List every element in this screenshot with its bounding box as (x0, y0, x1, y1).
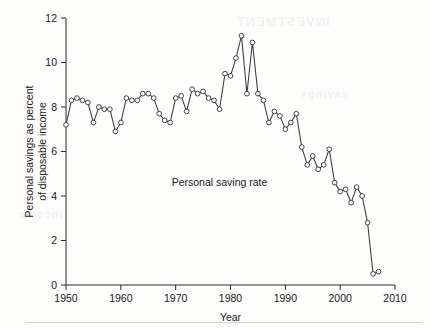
data-point-marker (212, 98, 217, 103)
data-point-marker (267, 120, 272, 125)
data-point-marker (250, 40, 255, 45)
data-point-marker (316, 167, 321, 172)
x-tick-label: 1960 (109, 292, 133, 304)
data-point-marker (108, 107, 113, 112)
data-point-marker (64, 122, 69, 127)
chart-annotations: Personal saving rate (172, 176, 268, 188)
x-tick-label: 1990 (274, 292, 298, 304)
y-tick-label: 0 (51, 279, 57, 291)
x-axis-ticks: 1950196019701980199020002010 (54, 285, 407, 304)
data-point-marker (201, 89, 206, 94)
data-point-marker (256, 91, 261, 96)
data-point-marker (278, 114, 283, 119)
data-point-marker (97, 105, 102, 110)
data-point-marker (332, 180, 337, 185)
data-point-marker (146, 91, 151, 96)
data-point-marker (129, 98, 134, 103)
data-point-marker (305, 163, 310, 168)
data-point-marker (365, 220, 370, 225)
data-point-marker (80, 98, 85, 103)
y-tick-label: 10 (45, 56, 57, 68)
y-tick-label: 2 (51, 234, 57, 246)
x-tick-label: 1950 (54, 292, 78, 304)
x-tick-label: 2000 (328, 292, 352, 304)
series-annotation: Personal saving rate (172, 176, 268, 188)
x-tick-label: 2010 (383, 292, 407, 304)
x-tick-label: 1970 (164, 292, 188, 304)
data-point-marker (113, 129, 118, 134)
y-axis-ticks: 024681012 (45, 12, 66, 291)
data-point-marker (327, 147, 332, 152)
data-point-marker (288, 120, 293, 125)
data-point-marker (310, 154, 315, 159)
data-point-marker (140, 91, 145, 96)
data-point-marker (349, 200, 354, 205)
data-point-marker (86, 100, 91, 105)
data-point-marker (299, 145, 304, 150)
y-tick-label: 6 (51, 145, 57, 157)
series-line-path (66, 36, 379, 274)
data-point-marker (168, 120, 173, 125)
data-point-marker (151, 96, 156, 101)
data-point-marker (360, 194, 365, 199)
page-bottom-rule (26, 322, 422, 323)
data-point-marker (118, 120, 123, 125)
y-axis-title-line-2: of disposable income (36, 102, 48, 201)
data-point-marker (239, 33, 244, 38)
data-point-marker (91, 120, 96, 125)
data-point-marker (234, 56, 239, 61)
y-axis-title-line-1: Personal savings as percent (23, 85, 35, 217)
chart-axes (66, 18, 395, 285)
data-point-marker (272, 109, 277, 114)
y-tick-label: 8 (51, 101, 57, 113)
data-point-marker (195, 91, 200, 96)
y-tick-label: 4 (51, 190, 57, 202)
data-point-marker (261, 98, 266, 103)
y-tick-label: 12 (45, 12, 57, 24)
data-point-marker (223, 71, 228, 76)
data-point-marker (294, 111, 299, 116)
data-point-marker (217, 107, 222, 112)
data-point-marker (206, 96, 211, 101)
data-point-marker (69, 98, 74, 103)
data-point-marker (102, 107, 107, 112)
data-point-marker (371, 272, 376, 277)
series-markers (64, 33, 381, 276)
data-point-marker (321, 163, 326, 168)
data-series-personal-saving-rate (64, 33, 381, 276)
data-point-marker (173, 96, 178, 101)
line-chart: 024681012 1950196019701980199020002010 P… (0, 0, 430, 328)
data-point-marker (283, 127, 288, 132)
data-point-marker (75, 96, 80, 101)
data-point-marker (338, 189, 343, 194)
data-point-marker (354, 185, 359, 190)
data-point-marker (124, 96, 129, 101)
data-point-marker (190, 87, 195, 92)
data-point-marker (157, 111, 162, 116)
data-point-marker (179, 94, 184, 99)
data-point-marker (245, 91, 250, 96)
chart-figure: INVESTMENT savings income 024681012 1950… (0, 0, 430, 328)
data-point-marker (376, 269, 381, 274)
data-point-marker (162, 118, 167, 123)
x-tick-label: 1980 (219, 292, 243, 304)
data-point-marker (135, 98, 140, 103)
data-point-marker (228, 74, 233, 79)
data-point-marker (184, 109, 189, 114)
data-point-marker (343, 187, 348, 192)
